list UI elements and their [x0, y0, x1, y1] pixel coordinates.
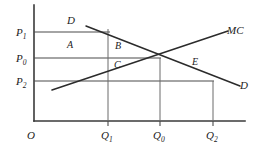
quantity-label-q2: Q2 — [206, 129, 218, 144]
quantity-label-q1: Q1 — [101, 129, 113, 144]
region-label-a: A — [66, 39, 74, 50]
quantity-label-q0: Q0 — [153, 129, 165, 144]
region-label-e: E — [191, 56, 198, 67]
price-label-p0: P0 — [15, 52, 27, 67]
price-label-p2: P2 — [15, 75, 27, 90]
demand-curve-label-left: D — [66, 14, 75, 26]
region-label-b: B — [115, 40, 121, 51]
demand-curve-label-right: D — [239, 79, 248, 91]
economics-diagram: P1 P0 P2 Q1 Q0 Q2 O D D MC A B C E — [0, 0, 260, 146]
marginal-cost-curve-label: MC — [226, 24, 244, 36]
origin-label: O — [27, 129, 35, 141]
price-label-p1: P1 — [15, 26, 26, 41]
region-label-c: C — [114, 59, 121, 70]
diagram-canvas: P1 P0 P2 Q1 Q0 Q2 O D D MC A B C E — [0, 0, 260, 146]
